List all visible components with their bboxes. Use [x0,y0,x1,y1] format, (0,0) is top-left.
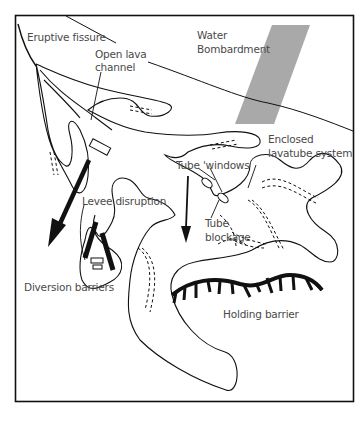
tube-arrow-head [181,226,191,243]
label-diversion-barriers: Diversion barriers [24,281,114,294]
tube-arrow-shaft [186,176,188,228]
label-tube-windows: Tube 'windows [176,159,250,172]
diversion-arrow-shaft [58,160,89,228]
label-tube: Tube [205,217,229,230]
label-water: Water [197,29,227,42]
diversion-box-2 [93,265,102,269]
label-open-lava-channel-2: channel [95,61,135,74]
holding-barrier-ticks [174,275,322,303]
label-enclosed: Enclosed [268,133,313,146]
water-bombardment-band [235,25,310,124]
label-bombardment: Bombardment [197,43,270,56]
lava-flow-diagram [0,0,364,422]
label-eruptive-fissure: Eruptive fissure [27,31,106,44]
diversion-box-1 [91,258,103,263]
label-lavatube-system: lavatube system [268,147,352,160]
lava-flow-branch-inner-2 [44,80,80,118]
label-holding-barrier: Holding barrier [223,308,299,321]
channel-section-box [89,139,110,155]
lava-flow-branch-inner [40,70,112,130]
label-blockage: blockage [205,231,251,244]
label-levee-disruption: Levee disruption [82,195,166,208]
diversion-barrier-2 [102,233,113,270]
label-open-lava-channel-1: Open lava [95,48,147,61]
diversion-arrow-head [48,218,66,247]
tube-window-1 [200,176,214,189]
